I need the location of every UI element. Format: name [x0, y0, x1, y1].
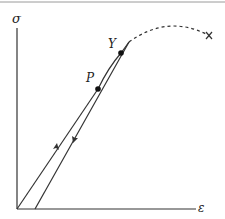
stress-strain-diagram: σ ε P Y — [0, 0, 225, 219]
point-p-label: P — [86, 72, 94, 84]
fracture-continuation-curve — [129, 26, 208, 42]
point-p-marker — [95, 86, 101, 92]
unloading-line — [35, 42, 129, 209]
x-axis-label: ε — [198, 202, 204, 214]
point-y-label: Y — [108, 38, 116, 50]
point-y-marker — [118, 50, 124, 56]
fracture-marker-icon — [206, 32, 212, 39]
y-axis-label: σ — [12, 12, 21, 25]
diagram-canvas — [0, 0, 225, 219]
loading-arrow-up-icon — [53, 143, 59, 150]
